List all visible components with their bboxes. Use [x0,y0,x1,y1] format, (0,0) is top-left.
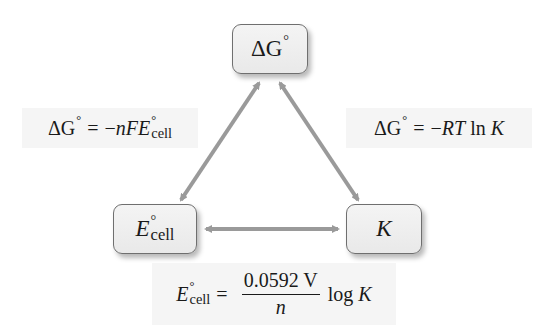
eq2-rhs-vars: RT [442,117,465,140]
node-e-cell: E°cell [113,204,197,254]
eq2-minus: − [431,117,442,140]
node-e-cell-subscript: cell [151,228,175,243]
node-delta-g-degree: ° [283,32,289,49]
eq3-fraction: 0.0592 V n [242,269,320,319]
eq1-lhs-degree: ° [76,113,81,128]
eq1-lhs: ΔG [48,117,75,140]
eq1-equals: = [87,117,98,140]
eq2-lhs: ΔG [374,117,401,140]
node-e-cell-scripts: °cell [151,215,175,243]
equation-deltaG-nFE: ΔG° = −nFE°cell [22,108,198,148]
eq1-rhs-degree: ° [151,115,172,126]
eq1-rhs-vars: nFE [116,117,150,140]
eq3-k: K [358,283,371,306]
eq3-lhs-scripts: °cell [190,282,211,306]
eq3-lhs-degree: ° [190,281,211,292]
eq1-rhs-scripts: °cell [151,116,172,140]
equation-Ecell-logK: E°cell = 0.0592 V n log K [152,263,396,325]
equation-deltaG-RTlnK: ΔG° = −RT ln K [346,108,532,148]
eq3-numerator: 0.0592 V [242,269,320,295]
eq3-lhs-subscript: cell [190,293,211,306]
eq2-ln: ln [470,117,486,140]
node-delta-g-symbol: ΔG [251,36,282,62]
eq1-minus: − [105,117,116,140]
eq1-rhs-subscript: cell [151,127,172,140]
eq3-lhs: E [176,283,188,306]
node-k: K [346,204,422,254]
eq3-denominator: n [276,295,286,319]
eq2-k: K [491,117,504,140]
node-delta-g: ΔG° [232,24,308,74]
eq2-lhs-degree: ° [402,113,407,128]
node-e-cell-symbol: E [136,216,150,242]
eq3-log: log [328,283,354,306]
eq3-equals: = [216,283,227,306]
node-k-symbol: K [376,216,391,242]
node-e-cell-degree: ° [151,214,175,227]
eq2-equals: = [413,117,424,140]
